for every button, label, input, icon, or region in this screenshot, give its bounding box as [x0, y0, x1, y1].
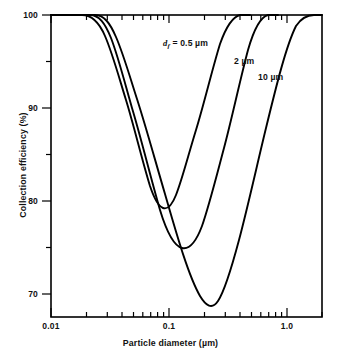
figure-container: 100 90 80 70 0.01 0.1 1.0 Particle diame… — [0, 0, 341, 359]
y-tick-label-100: 100 — [18, 10, 38, 20]
plot-frame — [51, 15, 322, 317]
y-axis-ticks — [42, 15, 51, 294]
series-label-df-2: 2 µm — [234, 56, 254, 66]
series-label-df-10: 10 µm — [258, 72, 283, 82]
series-label-df-0p5: df = 0.5 µm — [163, 38, 208, 50]
x-tick-label-0p1: 0.1 — [149, 321, 189, 331]
y-axis-title: Collection efficiency (%) — [18, 80, 28, 250]
collection-efficiency-chart — [0, 0, 341, 359]
y-tick-label-70: 70 — [18, 289, 38, 299]
axes-border — [51, 15, 322, 317]
x-tick-label-1p0: 1.0 — [267, 321, 307, 331]
x-axis-title: Particle diameter (µm) — [0, 338, 341, 348]
x-tick-label-0p01: 0.01 — [31, 321, 71, 331]
